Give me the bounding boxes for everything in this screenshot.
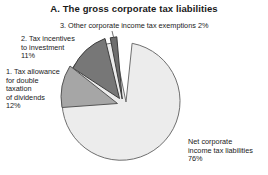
- pie-label-other-exemptions: 3. Other corporate income tax exemptions…: [60, 22, 208, 31]
- pie-label-tax-allowance-dividends: 1. Tax allowance for double taxation of …: [6, 68, 60, 111]
- pie-chart-figure: A. The gross corporate tax liabilities 3…: [0, 0, 268, 175]
- pie-label-tax-incentives-investment: 2. Tax incentives to investment 11%: [21, 35, 75, 61]
- leader-line-other-exemptions: [112, 31, 114, 37]
- pie-label-net-corporate: Net corporate income tax liabilities 76%: [188, 138, 253, 164]
